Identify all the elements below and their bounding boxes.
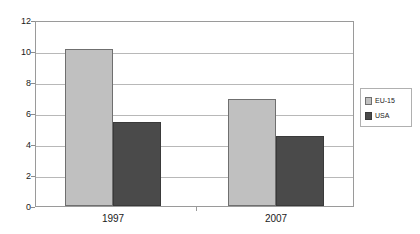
legend-swatch-icon <box>365 112 372 120</box>
x-tick-label: 2007 <box>227 214 325 224</box>
y-tick-label: 12 <box>5 17 31 26</box>
y-tick-label: 8 <box>5 79 31 88</box>
legend-item-usa[interactable]: USA <box>365 110 389 121</box>
y-tick-label: 0 <box>5 203 31 212</box>
x-tick-mark <box>196 207 197 211</box>
plot-area <box>35 21 354 207</box>
chart-legend: EU-15 USA <box>360 88 412 127</box>
bar-eu15-2007[interactable] <box>228 99 276 206</box>
y-tick-label: 4 <box>5 141 31 150</box>
legend-label: USA <box>375 112 389 120</box>
bar-usa-1997[interactable] <box>113 122 161 206</box>
y-tick-label: 10 <box>5 48 31 57</box>
bar-usa-2007[interactable] <box>276 136 324 206</box>
bars-layer <box>36 22 353 206</box>
legend-label: EU-15 <box>375 97 395 105</box>
y-axis: 12 10 8 6 4 2 0 <box>0 0 31 234</box>
y-tick-mark <box>31 207 35 208</box>
x-tick-label: 1997 <box>64 214 162 224</box>
legend-item-eu15[interactable]: EU-15 <box>365 95 395 106</box>
legend-swatch-icon <box>365 97 372 105</box>
y-tick-label: 2 <box>5 172 31 181</box>
y-tick-label: 6 <box>5 110 31 119</box>
bar-eu15-1997[interactable] <box>65 49 113 206</box>
bar-chart: 12 10 8 6 4 2 0 1997 200 <box>0 0 420 234</box>
